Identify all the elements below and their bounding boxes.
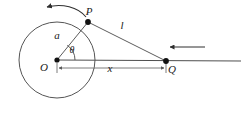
label-point-o: O: [40, 61, 48, 73]
rotation-direction-arrow: [47, 5, 86, 17]
connecting-rod-segment-pq: [88, 22, 166, 61]
label-point-q: Q: [168, 63, 176, 75]
label-angle-theta: θ: [70, 44, 75, 55]
point-o-dot: [54, 57, 59, 62]
horizontal-axis-line: [57, 60, 241, 61]
point-p-dot: [85, 19, 91, 25]
label-point-p: P: [85, 5, 93, 17]
label-length-l: l: [120, 19, 123, 31]
diagram-canvas: O P Q a l x θ: [0, 0, 249, 115]
label-radius-a: a: [54, 29, 60, 41]
geometry-diagram: O P Q a l x θ: [0, 0, 249, 115]
label-distance-x: x: [107, 62, 113, 74]
